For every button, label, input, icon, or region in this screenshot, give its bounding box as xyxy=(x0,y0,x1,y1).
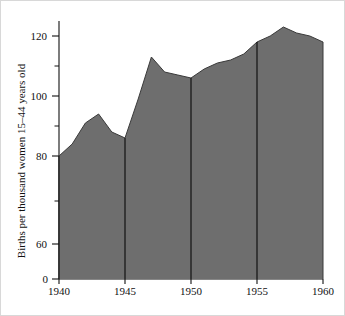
x-tick-label-1945: 1945 xyxy=(114,285,137,297)
y-tick-label-120: 120 xyxy=(31,30,48,42)
y-tick-label-80: 80 xyxy=(36,150,48,162)
y-tick-label-100: 100 xyxy=(31,90,48,102)
x-tick-label-1960: 1960 xyxy=(312,285,335,297)
x-tick-label-1955: 1955 xyxy=(246,285,269,297)
x-tick-label-1940: 1940 xyxy=(48,285,71,297)
y-tick-label-60: 60 xyxy=(36,238,48,250)
y-tick-label-0: 0 xyxy=(43,273,49,285)
y-axis-title: Births per thousand women 15–44 years ol… xyxy=(15,63,27,258)
chart-figure: 120 100 80 60 0 1940 1945 1950 1955 1960… xyxy=(0,0,345,316)
area-chart: 120 100 80 60 0 1940 1945 1950 1955 1960… xyxy=(1,1,345,316)
x-tick-label-1950: 1950 xyxy=(180,285,203,297)
